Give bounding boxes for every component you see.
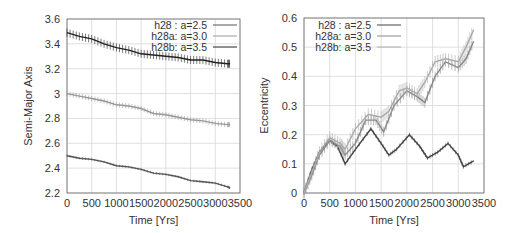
y-tick-label: 3: [54, 88, 60, 100]
legend-label: h28b: a=3.5: [315, 41, 371, 53]
y-tick-label: 0.2: [282, 129, 297, 141]
x-tick-label: 3500: [472, 197, 496, 209]
x-tick-label: 500: [321, 197, 339, 209]
x-tick-label: 3000: [446, 197, 470, 209]
series-markers: [304, 127, 471, 195]
x-tick-label: 3000: [203, 197, 227, 209]
y-tick-label: 0.4: [282, 70, 297, 82]
y-tick-label: 2.6: [45, 137, 60, 149]
x-axis-label: Time [Yrs]: [129, 214, 179, 226]
y-tick-label: 3.4: [45, 38, 60, 50]
y-tick-label: 3.2: [45, 63, 60, 75]
x-tick-label: 0: [64, 197, 70, 209]
y-tick-label: 3.6: [45, 13, 60, 25]
semi-major-axis-chart: 05001000150020002500300035002.22.42.62.8…: [0, 0, 260, 233]
x-tick-label: 2000: [154, 197, 178, 209]
x-tick-label: 2500: [420, 197, 444, 209]
x-axis-label: Time [Yrs]: [369, 214, 419, 226]
x-tick-label: 1500: [129, 197, 153, 209]
y-axis-label: Eccentricity: [260, 77, 270, 134]
figure: 05001000150020002500300035002.22.42.62.8…: [0, 0, 520, 233]
y-tick-label: 0.6: [282, 12, 297, 24]
y-tick-label: 2.8: [45, 112, 60, 124]
legend-label: h28b: a=3.5: [151, 41, 207, 53]
x-tick-label: 3500: [228, 197, 252, 209]
x-tick-label: 2500: [178, 197, 202, 209]
y-tick-label: 2.4: [45, 162, 60, 174]
y-tick-label: 0.1: [282, 158, 297, 170]
y-axis-label: Semi-Major Axis: [22, 66, 34, 146]
y-tick-label: 0.3: [282, 100, 297, 112]
x-tick-label: 2000: [395, 197, 419, 209]
x-tick-label: 1000: [104, 197, 128, 209]
series-markers: [304, 28, 472, 199]
x-tick-label: 1500: [369, 197, 393, 209]
x-tick-label: 500: [83, 197, 101, 209]
y-tick-label: 0: [291, 187, 297, 199]
y-tick-label: 2.2: [45, 187, 60, 199]
x-tick-label: 1000: [343, 197, 367, 209]
eccentricity-chart: 050010001500200025003000350000.10.20.30.…: [260, 0, 520, 233]
y-tick-label: 0.5: [282, 41, 297, 53]
